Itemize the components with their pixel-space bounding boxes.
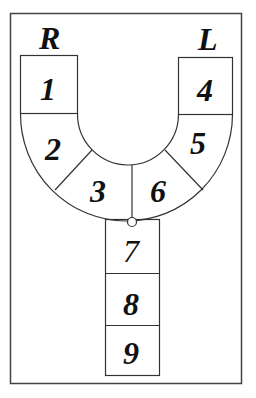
u-shaped-segment-diagram: R L 1 2 3 4 5 6 7 8 9 bbox=[0, 0, 256, 398]
segment-3-label: 3 bbox=[89, 173, 106, 209]
segment-8-label: 8 bbox=[123, 286, 139, 322]
segment-9-label: 9 bbox=[123, 335, 139, 371]
junction-circle-icon bbox=[128, 218, 137, 227]
label-r: R bbox=[38, 20, 60, 56]
segment-2-label: 2 bbox=[44, 131, 61, 167]
segment-6-label: 6 bbox=[150, 173, 166, 209]
outer-frame bbox=[11, 14, 242, 384]
segment-5-label: 5 bbox=[190, 125, 206, 161]
label-l: L bbox=[197, 21, 218, 57]
inner-arc bbox=[77, 114, 178, 165]
segment-1-label: 1 bbox=[40, 71, 56, 107]
segment-7-label: 7 bbox=[123, 233, 141, 269]
segment-4-label: 4 bbox=[196, 72, 213, 108]
